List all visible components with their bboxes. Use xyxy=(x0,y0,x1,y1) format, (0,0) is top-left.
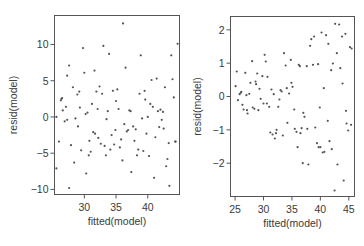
data-point xyxy=(248,93,250,95)
right-plot-xlabel: fitted(model) xyxy=(263,217,321,229)
data-point xyxy=(153,177,155,179)
data-point xyxy=(76,93,78,95)
data-point xyxy=(319,106,321,108)
data-point xyxy=(241,104,243,106)
data-point xyxy=(163,127,165,129)
data-point xyxy=(98,85,100,87)
data-point xyxy=(64,120,66,122)
data-point xyxy=(171,78,173,80)
data-point xyxy=(114,129,116,131)
data-point xyxy=(317,63,319,65)
right-plot-xtick-label: 35 xyxy=(286,203,298,215)
data-point xyxy=(260,98,262,100)
right-plot-ytick-label: 0 xyxy=(219,90,225,102)
data-point xyxy=(94,133,96,135)
data-point xyxy=(173,96,175,98)
data-point xyxy=(306,65,308,67)
left-plot-ticks: 303540−10−50510 xyxy=(31,38,154,212)
right-plot-ytick-label: −1 xyxy=(213,124,225,136)
data-point xyxy=(255,83,257,85)
data-point xyxy=(295,131,297,133)
data-point xyxy=(261,75,263,77)
data-point xyxy=(246,112,248,114)
data-point xyxy=(112,90,114,92)
right-plot-xtick-label: 25 xyxy=(229,203,241,215)
data-point xyxy=(72,86,74,88)
data-point xyxy=(345,110,347,112)
data-point xyxy=(58,140,60,142)
right-plot-ytick-label: 1 xyxy=(219,57,225,69)
residual-plots-figure: 303540−10−50510 fitted(model) resid(mode… xyxy=(0,0,364,246)
data-point xyxy=(170,54,172,56)
data-point xyxy=(291,86,293,88)
data-point xyxy=(293,108,295,110)
left-plot-ytick-label: 10 xyxy=(37,38,49,50)
data-point xyxy=(266,102,268,104)
data-point xyxy=(301,127,303,129)
left-plot-ytick-label: −10 xyxy=(31,183,49,195)
data-point xyxy=(136,154,138,156)
data-point xyxy=(62,109,64,111)
data-point xyxy=(124,67,126,69)
data-point xyxy=(82,47,84,49)
data-point xyxy=(303,116,305,118)
data-point xyxy=(330,69,332,71)
data-point xyxy=(325,34,327,36)
data-point xyxy=(108,53,110,55)
left-plot-xtick-label: 40 xyxy=(142,201,154,213)
data-point xyxy=(145,133,147,135)
data-point xyxy=(269,131,271,133)
data-point xyxy=(283,52,285,54)
data-point xyxy=(273,93,275,95)
data-point xyxy=(161,119,163,121)
data-point xyxy=(66,75,68,77)
data-point xyxy=(152,106,154,108)
data-point xyxy=(336,163,338,165)
data-point xyxy=(149,103,151,105)
data-point xyxy=(120,138,122,140)
data-point xyxy=(77,125,79,127)
data-point xyxy=(314,126,316,128)
data-point xyxy=(299,132,301,134)
data-point xyxy=(266,76,268,78)
data-point xyxy=(154,136,156,138)
data-point xyxy=(256,72,258,74)
data-point xyxy=(140,54,142,56)
data-point xyxy=(235,85,237,87)
right-plot-xtick-label: 30 xyxy=(258,203,270,215)
data-point xyxy=(270,88,272,90)
data-point xyxy=(246,109,248,111)
right-plot-ytick-label: 2 xyxy=(219,24,225,36)
data-point xyxy=(338,23,340,25)
data-point xyxy=(257,109,259,111)
data-point xyxy=(244,72,246,74)
data-point xyxy=(55,167,57,169)
data-point xyxy=(278,98,280,100)
data-point xyxy=(164,86,166,88)
data-point xyxy=(130,110,132,112)
left-plot-xlabel: fitted(model) xyxy=(88,215,146,227)
left-plot-ytick-label: 0 xyxy=(43,111,49,123)
data-point xyxy=(339,67,341,69)
data-point xyxy=(127,129,129,131)
data-point xyxy=(327,120,329,122)
data-point xyxy=(100,143,102,145)
data-point xyxy=(249,82,251,84)
right-plot-xtick-label: 45 xyxy=(343,203,355,215)
data-point xyxy=(142,150,144,152)
data-point xyxy=(251,60,253,62)
right-residual-plot: 2530354045−2−1012 fitted(model) resid(mo… xyxy=(191,17,355,229)
data-point xyxy=(78,90,80,92)
data-point xyxy=(113,143,115,145)
data-point xyxy=(323,87,325,89)
data-point xyxy=(70,144,72,146)
data-point xyxy=(327,43,329,45)
data-point xyxy=(133,140,135,142)
data-point xyxy=(286,122,288,124)
data-point xyxy=(312,64,314,66)
left-plot-ylabel: resid(model) xyxy=(7,76,19,134)
right-plot-frame xyxy=(231,17,355,197)
right-plot-points xyxy=(235,23,353,192)
data-point xyxy=(68,187,70,189)
data-point xyxy=(245,94,247,96)
